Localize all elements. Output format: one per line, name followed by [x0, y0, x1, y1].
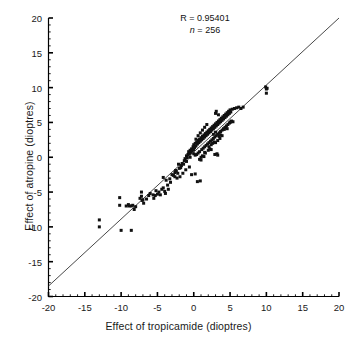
y-tick-label: 10: [14, 82, 42, 93]
data-point: [199, 179, 202, 182]
data-point: [118, 196, 121, 199]
data-point: [134, 205, 137, 208]
data-point: [200, 159, 203, 162]
y-tick-label: 20: [14, 13, 42, 24]
data-point: [210, 143, 213, 146]
data-point: [98, 218, 101, 221]
data-point: [203, 151, 206, 154]
x-tick-label: 5: [227, 302, 232, 313]
data-point: [168, 177, 171, 180]
stats-annotation: R = 0.95401 n = 256: [150, 12, 260, 36]
data-point: [194, 138, 197, 141]
data-point: [221, 134, 224, 137]
n-value: 256: [205, 25, 220, 35]
x-tick-label: 0: [191, 302, 196, 313]
data-point: [178, 175, 181, 178]
data-point: [118, 204, 121, 207]
y-tick-label: 0: [14, 152, 42, 163]
data-point: [203, 126, 206, 129]
n-equals: =: [195, 25, 205, 35]
y-tick-label: -10: [14, 221, 42, 232]
x-axis-title: Effect of tropicamide (dioptres): [0, 320, 357, 332]
data-point: [217, 113, 220, 116]
data-point: [165, 179, 168, 182]
x-tick-label: -5: [153, 302, 161, 313]
data-point: [173, 175, 176, 178]
y-tick-label: -5: [14, 187, 42, 198]
y-tick-label: -20: [14, 291, 42, 302]
data-point: [167, 188, 170, 191]
data-point: [215, 110, 218, 113]
data-point: [186, 156, 189, 159]
data-point: [157, 191, 160, 194]
data-point: [177, 163, 180, 166]
data-point: [154, 189, 157, 192]
data-point: [189, 156, 192, 159]
data-point: [196, 180, 199, 183]
data-point: [190, 173, 193, 176]
data-point: [162, 186, 165, 189]
data-point: [145, 198, 148, 201]
data-point: [229, 120, 232, 123]
data-point: [140, 191, 143, 194]
data-point: [216, 154, 219, 157]
x-tick-label: -15: [78, 302, 92, 313]
data-point: [176, 172, 179, 175]
data-point: [181, 172, 184, 175]
data-point: [142, 202, 145, 205]
x-tick-label: -20: [42, 302, 56, 313]
data-point: [182, 163, 185, 166]
data-point: [159, 193, 162, 196]
x-tick-label: 20: [334, 302, 345, 313]
x-tick-label: -10: [114, 302, 128, 313]
data-point: [166, 184, 169, 187]
sample-size-label: n = 256: [150, 24, 260, 36]
data-point: [139, 197, 142, 200]
correlation-label: R = 0.95401: [150, 12, 260, 24]
x-tick-label: 10: [261, 302, 272, 313]
x-axis-ticks: [49, 292, 340, 297]
axis-lines: [48, 18, 339, 297]
data-point: [98, 225, 101, 228]
data-point: [130, 229, 133, 232]
x-tick-label: 15: [297, 302, 308, 313]
y-tick-label: 5: [14, 117, 42, 128]
data-point: [179, 166, 182, 169]
plot-canvas: [0, 0, 357, 347]
data-point: [162, 176, 165, 179]
data-point: [127, 203, 130, 206]
data-point: [242, 106, 245, 109]
data-point: [133, 208, 136, 211]
data-point: [198, 150, 201, 153]
data-point: [149, 192, 152, 195]
data-point: [197, 134, 200, 137]
data-point: [214, 131, 217, 134]
data-point: [163, 190, 166, 193]
data-point: [194, 172, 197, 175]
data-point: [131, 204, 134, 207]
data-point: [195, 153, 198, 156]
data-point: [218, 137, 221, 140]
y-tick-label: 15: [14, 47, 42, 58]
data-point: [174, 169, 177, 172]
scatter-plot-figure: R = 0.95401 n = 256 Effect of tropicamid…: [0, 0, 357, 347]
data-point: [201, 129, 204, 132]
data-points: [98, 85, 269, 231]
data-point: [202, 155, 205, 158]
data-point: [205, 123, 208, 126]
data-point: [210, 148, 213, 151]
data-point: [184, 168, 187, 171]
data-point: [152, 197, 155, 200]
y-axis-ticks: [49, 18, 54, 297]
data-point: [229, 110, 232, 113]
data-point: [265, 92, 268, 95]
data-point: [185, 160, 188, 163]
data-point: [141, 198, 144, 201]
data-point: [266, 87, 269, 90]
data-point: [120, 229, 123, 232]
data-point: [199, 131, 202, 134]
data-point: [169, 181, 172, 184]
data-point: [188, 165, 191, 168]
y-tick-label: -15: [14, 256, 42, 267]
